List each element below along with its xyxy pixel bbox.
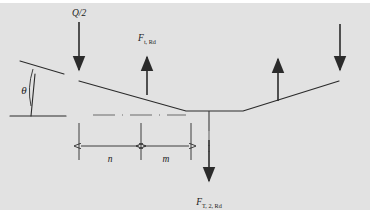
dimension-label-m: m <box>163 154 170 164</box>
figure-panel <box>0 3 370 210</box>
force-t-rd-subscript: t, Rd <box>144 38 157 45</box>
beam-force-diagram: θ Q/2 Ft, Rd FT, 2, Rd <box>0 0 370 218</box>
load-q-label: Q/2 <box>72 8 87 18</box>
figure-container: θ Q/2 Ft, Rd FT, 2, Rd <box>0 0 370 218</box>
angle-theta-label: θ <box>21 84 27 96</box>
force-t2-rd-subscript: T, 2, Rd <box>202 202 223 209</box>
dimension-label-n: n <box>108 154 113 164</box>
